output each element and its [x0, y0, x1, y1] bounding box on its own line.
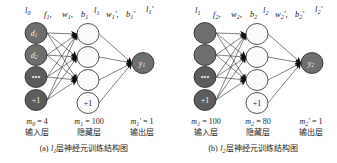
b-activation-symbol: f2,: [213, 10, 221, 20]
hidden-node-3: [77, 70, 99, 91]
a-input-layer-symbol: l0: [25, 6, 30, 16]
a-output-layer-symbol: l1′: [146, 5, 153, 15]
a-weight-prime-symbol: w1′,: [106, 10, 119, 20]
hidden-node-1: [246, 24, 268, 45]
edges-input-to-hidden: [216, 33, 246, 100]
output-layer-nodes: y2: [301, 53, 323, 74]
panel-a-diagram: d1 d2 ••• +1 +1 y1: [0, 0, 168, 163]
hidden-node-2: [77, 47, 99, 68]
hidden-node-3: [246, 70, 268, 91]
output-layer-nodes: y1: [132, 53, 154, 74]
edges-input-to-hidden: [47, 33, 77, 100]
hidden-node-bias-label: +1: [253, 99, 262, 108]
b-hidden-count: m2 = 80 隐藏层: [229, 117, 287, 138]
b-hidden-layer-symbol: l2: [263, 6, 268, 16]
a-weight-symbol: w1,: [62, 10, 73, 20]
b-input-layer-symbol: l1: [195, 6, 200, 16]
a-activation-symbol: f1,: [44, 10, 52, 20]
edges-hidden-to-output: [268, 34, 301, 103]
b-bias-prime-symbol: b2′: [295, 10, 304, 20]
input-node-bias-label: +1: [201, 96, 210, 105]
a-caption: (a) l1层神经元训练结构图: [0, 145, 168, 154]
panel-a: d1 d2 ••• +1 +1 y1 l0 f1, w1, b1: [0, 0, 168, 163]
a-hidden-layer-symbol: l1: [94, 6, 99, 16]
hidden-node-2: [246, 47, 268, 68]
a-hidden-count: m1 = 100 隐藏层: [58, 117, 120, 138]
hidden-node-1: [77, 24, 99, 45]
panel-b: ••• +1 +1 y2 l1 f2, w2, b2 l2 w2′, b2′ l…: [169, 0, 337, 163]
input-layer-nodes: d1 d2 ••• +1: [25, 23, 47, 111]
panel-b-diagram: ••• +1 +1 y2: [169, 0, 337, 163]
input-node-ellipsis-label: •••: [32, 73, 41, 82]
input-node-2: [194, 45, 216, 66]
a-output-count: m1′ = 1 输出层: [118, 117, 166, 138]
b-bias-symbol: b2: [250, 10, 257, 20]
b-output-count: m2′ = 1 输出层: [287, 117, 335, 138]
b-weight-prime-symbol: w2′,: [275, 10, 288, 20]
input-layer-nodes: ••• +1: [194, 23, 216, 111]
b-caption: (b) l2层神经元训练结构图: [169, 145, 337, 154]
edges-hidden-to-output: [99, 34, 132, 103]
b-output-layer-symbol: l2′: [315, 5, 322, 15]
neural-network-figure: d1 d2 ••• +1 +1 y1 l0 f1, w1, b1: [0, 0, 337, 163]
b-input-count: m1 = 100 输入层: [175, 117, 237, 138]
input-node-ellipsis-label: •••: [201, 73, 210, 82]
input-node-1: [194, 23, 216, 44]
b-weight-symbol: w2,: [231, 10, 242, 20]
a-bias-prime-symbol: b1′: [126, 10, 135, 20]
hidden-node-bias-label: +1: [84, 99, 93, 108]
hidden-layer-nodes: +1: [77, 24, 99, 114]
hidden-layer-nodes: +1: [246, 24, 268, 114]
a-bias-symbol: b1: [81, 10, 88, 20]
input-node-bias-label: +1: [32, 96, 41, 105]
